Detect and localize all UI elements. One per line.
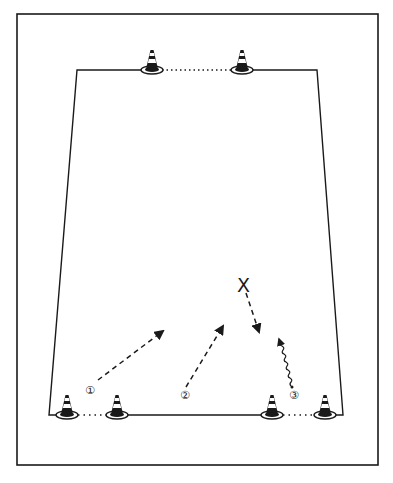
cone-icon	[106, 395, 128, 419]
run-arrow-2	[186, 326, 223, 387]
player-marker-x: X	[237, 274, 250, 296]
label-3: ③	[289, 389, 299, 402]
pass-arrow	[246, 293, 259, 332]
cone-icon	[56, 395, 78, 419]
cone-icon	[261, 395, 283, 419]
label-1: ①	[85, 384, 95, 397]
drill-diagram: X ① ② ③	[0, 0, 393, 483]
run-arrow-1	[98, 331, 163, 380]
cone-icon	[231, 50, 253, 74]
cone-icon	[314, 395, 336, 419]
cone-icon	[141, 50, 163, 74]
dribble-path	[279, 339, 292, 386]
label-2: ②	[180, 389, 190, 402]
field-outline	[49, 70, 343, 415]
